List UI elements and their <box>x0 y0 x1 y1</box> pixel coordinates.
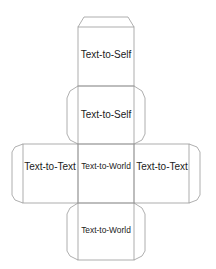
face-left <box>23 144 78 203</box>
left-tab <box>12 144 23 203</box>
upper-middle-left-tab <box>67 86 78 144</box>
face-right <box>134 144 189 203</box>
face-center-label: Text-to-World <box>81 161 131 171</box>
right-tab <box>189 144 200 203</box>
bottom-right-tab <box>134 203 145 260</box>
face-right-label: Text-to-Text <box>136 161 188 172</box>
upper-middle-right-tab <box>134 86 145 144</box>
face-upper-middle-label: Text-to-Self <box>81 109 132 120</box>
top-tab <box>78 17 134 27</box>
bottom-left-tab <box>67 203 78 260</box>
face-center <box>78 144 134 203</box>
face-bottom-label: Text-to-World <box>81 225 131 235</box>
face-left-label: Text-to-Text <box>24 161 76 172</box>
face-top-label: Text-to-Self <box>81 49 132 60</box>
